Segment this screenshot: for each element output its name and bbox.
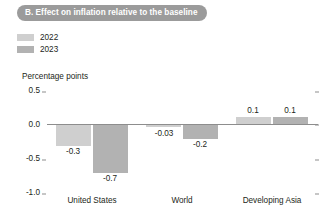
bar-world-2022 (146, 125, 181, 127)
category-label-united-states: United States (67, 196, 116, 205)
y-tick-mark-left (42, 194, 46, 195)
bar-world-2023 (183, 125, 218, 139)
y-tick-mark-right (315, 194, 319, 195)
bar-united-states-2023 (93, 125, 128, 173)
y-tick-label: 0.0 (14, 120, 40, 129)
bar-developing-asia-2022 (236, 117, 271, 124)
bar-developing-asia-2023 (273, 117, 308, 124)
y-tick-mark-left (42, 92, 46, 93)
category-label-world: World (171, 196, 192, 205)
bar-value-developing-asia-2022: 0.1 (247, 106, 258, 115)
category-label-developing-asia: Developing Asia (243, 196, 302, 205)
y-tick-mark-right (315, 92, 319, 93)
bar-value-united-states-2022: -0.3 (66, 147, 80, 156)
bar-value-developing-asia-2023: 0.1 (284, 106, 295, 115)
chart-plot-area: 0.5 0.0 -0.5 -1.0 -0.3 -0.7 -0.03 -0.2 0… (0, 0, 326, 211)
y-tick-label: 0.5 (14, 86, 40, 95)
bar-value-world-2023: -0.2 (193, 140, 207, 149)
bar-value-world-2022: -0.03 (155, 129, 174, 138)
bar-united-states-2022 (56, 125, 91, 146)
y-tick-mark-left (42, 160, 46, 161)
y-tick-mark-right (315, 160, 319, 161)
y-tick-label: -0.5 (14, 154, 40, 163)
bar-value-united-states-2023: -0.7 (103, 174, 117, 183)
y-tick-label: -1.0 (14, 188, 40, 197)
